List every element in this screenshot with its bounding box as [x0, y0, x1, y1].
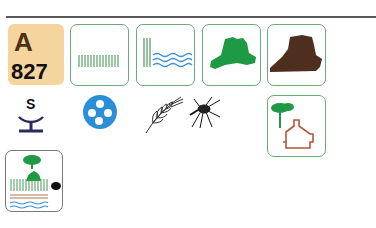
grassland-icon — [71, 25, 127, 84]
wetland-tree-icon — [6, 151, 62, 210]
tile-brown-rock — [267, 24, 326, 86]
tile-green-hill — [202, 24, 261, 86]
code-letter: A — [14, 29, 33, 55]
top-rule — [6, 16, 376, 18]
brown-rock-icon — [268, 25, 324, 84]
four-dot-disc-icon — [82, 94, 118, 130]
code-badge: A 827 — [8, 24, 64, 85]
tree-house-icon — [268, 96, 324, 155]
tile-grassland — [70, 24, 129, 86]
wheat-icon — [143, 95, 185, 135]
tile-wetland-tree — [5, 150, 63, 212]
tile-reeds-water — [136, 24, 195, 86]
salt-marsh-symbol: S — [16, 97, 46, 137]
tile-tree-house — [267, 95, 326, 157]
reeds-water-icon — [137, 25, 193, 84]
code-number: 827 — [11, 61, 48, 83]
pedestal-icon — [16, 113, 46, 135]
green-hill-icon — [203, 25, 259, 84]
salt-letter: S — [26, 97, 35, 111]
mosquito-icon — [186, 97, 226, 131]
